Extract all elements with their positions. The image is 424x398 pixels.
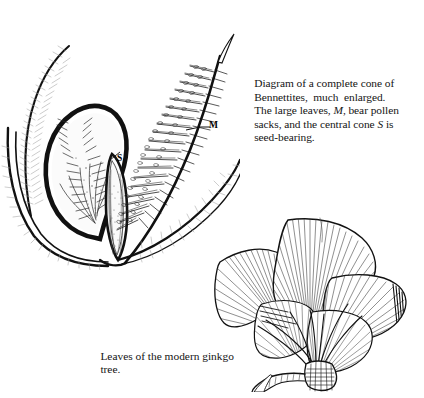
- caption-line-4-part-b: is: [383, 118, 393, 130]
- ginkgo-caption-line-1: Leaves of the modern ginkgo: [100, 350, 233, 362]
- caption-line-2: Bennettites, much enlarged.: [254, 91, 385, 103]
- pollen-leaf-pinnules-left: [117, 66, 214, 230]
- figure-root: M S: [0, 0, 424, 398]
- caption-line-3-part-a: The large leaves,: [254, 104, 333, 116]
- ginkgo-caption-line-2: tree.: [100, 363, 120, 375]
- cone-receptacle: [100, 260, 126, 265]
- caption-line-4-part-a: sacks, and the central cone: [254, 118, 377, 130]
- caption-bennettites-cone: Diagram of a complete cone of Bennettite…: [243, 64, 421, 158]
- figure-label-s: S: [117, 153, 122, 163]
- caption-line-1: Diagram of a complete cone of: [254, 77, 394, 89]
- figure-label-m: M: [209, 120, 218, 130]
- caption-label-m: M: [333, 104, 342, 116]
- caption-line-3-part-b: , bear pollen: [343, 104, 399, 116]
- pollen-leaf-tip: [218, 34, 234, 63]
- caption-line-5: seed-bearing.: [254, 131, 314, 143]
- caption-ginkgo-leaves: Leaves of the modern ginkgo tree.: [89, 336, 249, 390]
